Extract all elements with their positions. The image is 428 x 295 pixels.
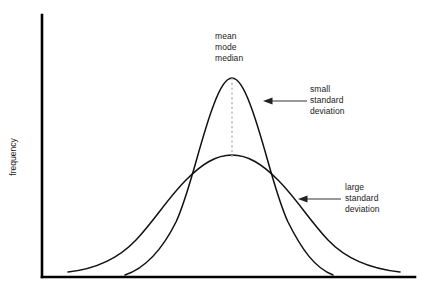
center-mean-mode-median-label: mean mode median	[215, 31, 243, 63]
distribution-figure: frequency mean mode median small standar…	[0, 0, 428, 295]
small-sd-pointer	[263, 97, 307, 104]
y-axis-label: frequency	[8, 127, 18, 187]
curve-small-standard-deviation	[125, 78, 333, 275]
large-standard-deviation-label: large standard deviation	[345, 182, 379, 214]
plot-canvas	[0, 0, 428, 295]
large-sd-pointer	[298, 195, 341, 202]
small-standard-deviation-label: small standard deviation	[310, 84, 344, 116]
